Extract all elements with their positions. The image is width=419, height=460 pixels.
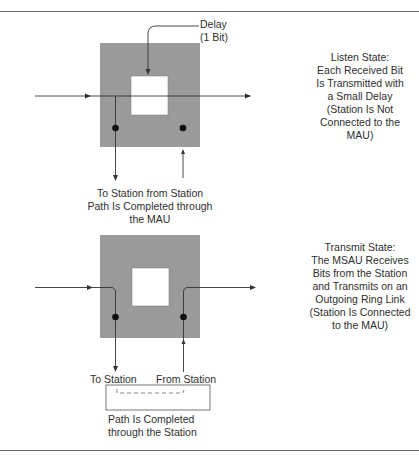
listen-output-arrow-icon: [245, 94, 251, 99]
desc-line: to the MAU): [300, 319, 419, 332]
caption-line: To Station from Station: [80, 187, 220, 200]
caption-line: through the Station: [108, 426, 218, 439]
listen-right-contact-dot: [180, 125, 187, 132]
desc-line: a Small Delay: [300, 90, 419, 103]
transmit-state-description: Transmit State: The MSAU Receives Bits f…: [300, 241, 419, 332]
from-station-label: From Station: [156, 373, 226, 386]
desc-line: Outgoing Ring Link: [300, 293, 419, 306]
transmit-state-caption: Path Is Completed through the Station: [108, 413, 218, 439]
listen-to-station-arrow-icon: [113, 175, 118, 181]
to-station-label: To Station: [90, 373, 150, 386]
desc-line: Is Transmitted with: [300, 77, 419, 90]
caption-line: Path Is Completed through: [80, 200, 220, 213]
listen-state-diagram: [35, 26, 251, 181]
listen-from-station-arrow-icon: [181, 149, 185, 154]
delay-label-line: Delay: [200, 18, 234, 31]
desc-line: (Station Is Connected: [300, 306, 419, 319]
transmit-left-contact-dot: [112, 314, 119, 321]
desc-line: MAU): [300, 129, 419, 142]
desc-line: Listen State:: [300, 51, 419, 64]
caption-line: Path Is Completed: [108, 413, 218, 426]
caption-line: the MAU: [80, 213, 220, 226]
desc-line: Transmit State:: [300, 241, 419, 254]
desc-line: Each Received Bit: [300, 64, 419, 77]
desc-line: Bits from the Station: [300, 267, 419, 280]
listen-input-arrow-icon: [85, 94, 91, 99]
transmit-delay-buffer: [132, 268, 169, 306]
transmit-right-contact-dot: [180, 314, 187, 321]
transmit-from-station-arrow-icon: [182, 339, 186, 344]
listen-state-description: Listen State: Each Received Bit Is Trans…: [300, 51, 419, 142]
transmit-output-arrow-icon: [250, 285, 256, 290]
listen-delay-buffer: [131, 76, 168, 115]
desc-line: The MSAU Receives: [300, 254, 419, 267]
transmit-to-station-arrow-icon: [113, 366, 118, 372]
listen-state-caption: To Station from Station Path Is Complete…: [80, 187, 220, 226]
delay-label-line: (1 Bit): [200, 31, 234, 44]
station-box: [106, 385, 210, 410]
desc-line: Connected to the: [300, 116, 419, 129]
transmit-input-arrow-icon: [87, 285, 93, 290]
desc-line: (Station Is Not: [300, 103, 419, 116]
delay-label: Delay (1 Bit): [200, 18, 234, 44]
desc-line: and Transmits on an: [300, 280, 419, 293]
listen-left-contact-dot: [112, 125, 119, 132]
